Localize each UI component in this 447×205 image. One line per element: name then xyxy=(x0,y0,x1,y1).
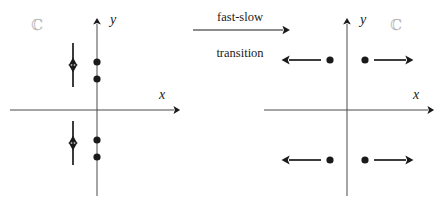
eigenvalue-dot xyxy=(326,56,333,63)
axes-after xyxy=(264,24,428,196)
eigenvalue-dot xyxy=(93,136,100,143)
complex-plane-label: ℂ xyxy=(31,18,43,33)
x-axis-label: x xyxy=(413,88,419,102)
complex-plane-panel-after: ℂ x y xyxy=(224,0,447,205)
eigenvalue-dot xyxy=(93,75,100,82)
eigenvalue-dot xyxy=(361,56,368,63)
eigenvalue-dot xyxy=(326,156,333,163)
complex-plane-label: ℂ xyxy=(390,18,402,33)
axes-before xyxy=(10,24,174,196)
eigenvalue-dot xyxy=(93,58,100,65)
x-axis-label: x xyxy=(159,88,165,102)
y-axis-label: y xyxy=(360,13,366,27)
panel-after-graphics xyxy=(224,0,447,205)
eigenvalue-dot xyxy=(93,153,100,160)
fast-slow-transition-figure: ℂ x y fast-slow transition xyxy=(0,0,447,205)
y-axis-label: y xyxy=(110,13,116,27)
eigenvalue-dot xyxy=(361,156,368,163)
